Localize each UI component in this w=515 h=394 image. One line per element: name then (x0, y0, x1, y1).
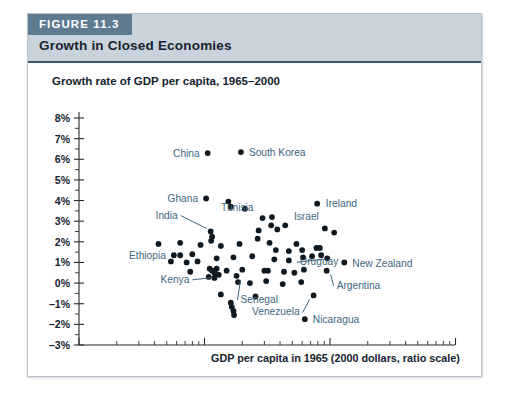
point-label: Nicaragua (313, 314, 360, 325)
point-label: Argentina (337, 280, 381, 291)
point-label: China (173, 148, 200, 159)
svg-text:100: 100 (70, 352, 88, 353)
figure-container: FIGURE 11.3 Growth in Closed Economies G… (27, 13, 482, 377)
svg-text:6%: 6% (55, 153, 71, 165)
svg-text:1%: 1% (55, 256, 71, 268)
point-label: New Zealand (352, 258, 412, 269)
point-label: Ethiopia (129, 250, 166, 261)
point-label: Tunisia (221, 202, 254, 213)
svg-text:2%: 2% (55, 236, 71, 248)
point-label: South Korea (249, 147, 306, 158)
point-label: Venezuela (252, 306, 300, 317)
figure-title: Growth in Closed Economies (39, 38, 232, 53)
x-axis-title: GDP per capita in 1965 (2000 dollars, ra… (211, 352, 460, 364)
point-label: Israel (294, 211, 319, 222)
point-label: Ireland (326, 198, 357, 209)
svg-text:3%: 3% (55, 215, 71, 227)
svg-text:5%: 5% (55, 174, 71, 186)
point-label: Ghana (168, 193, 199, 204)
svg-text:4%: 4% (55, 195, 71, 207)
figure-number-badge: FIGURE 11.3 (28, 14, 132, 35)
scatter-plot: 8%7%6%5%4%3%2%1%0%–1%–2%–3%1001,00010,00… (28, 63, 483, 353)
svg-text:7%: 7% (55, 133, 71, 145)
point-label: India (156, 210, 178, 221)
point-label: Senegal (241, 294, 278, 305)
svg-text:–3%: –3% (49, 339, 71, 351)
chart-area: Growth rate of GDP per capita, 1965–2000… (28, 63, 481, 376)
figure-header: FIGURE 11.3 Growth in Closed Economies (28, 14, 481, 63)
svg-text:–1%: –1% (49, 298, 71, 310)
svg-text:–2%: –2% (49, 318, 71, 330)
svg-text:0%: 0% (55, 277, 71, 289)
point-label: Uruguay (300, 256, 339, 267)
point-labels: ChinaSouth KoreaGhanaIndiaTunisiaIreland… (129, 147, 413, 326)
svg-text:8%: 8% (55, 112, 71, 124)
point-label: Kenya (160, 274, 189, 285)
